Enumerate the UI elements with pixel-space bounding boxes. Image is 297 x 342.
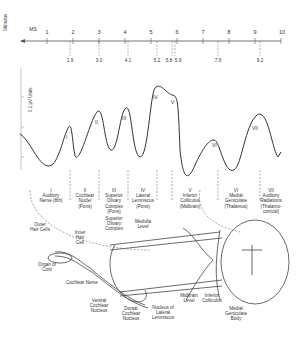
tick-3: 3 <box>97 29 100 35</box>
axis-arrow-icon <box>20 39 25 43</box>
wave-iii-label: III <box>122 115 126 121</box>
wave-i-label: I <box>66 134 67 140</box>
wave-ii-label: II <box>95 119 98 125</box>
medial-geniculate-body-label: Medial Geniculate Body <box>222 306 250 322</box>
latency-v2: 5.9 <box>175 58 181 63</box>
wave-vii-label: VII <box>252 125 258 131</box>
organ-of-corti-label: Organ of Corti <box>36 262 58 272</box>
ms-label: MS <box>29 26 37 32</box>
amplitude-label: 0.1 µV Units <box>28 87 33 112</box>
latency-ii: 3.0 <box>96 58 102 63</box>
superior-olivary-label: Superior Olivary Complex <box>102 216 126 232</box>
abr-waveform <box>20 86 281 176</box>
tick-8: 8 <box>227 29 230 35</box>
latency-v1: 5.8 <box>166 58 172 63</box>
latency-vii: 9.2 <box>257 58 263 63</box>
ventral-cochlear-label: Ventral Cochlear Nucleus <box>88 298 110 314</box>
wave-iv-label: IV <box>153 94 158 100</box>
latency-i: 1.9 <box>67 58 73 63</box>
generator-vii: VIIAuditoryRadiations(Thalamo-cortical) <box>255 188 287 214</box>
outer-hair-cells-label: Outer Hair Cells <box>30 222 50 232</box>
tick-5: 5 <box>149 29 152 35</box>
tick-10: 10 <box>279 29 285 35</box>
midbrain-level-label: Midbrain Level <box>178 293 200 303</box>
latency-iii: 4.1 <box>125 58 131 63</box>
dorsal-cochlear-label: Dorsal Cochlear Nucleus <box>120 306 142 322</box>
tick-4: 4 <box>123 29 126 35</box>
generator-ii: IICochlearNuclei(Pons) <box>72 188 98 209</box>
inferior-colliculus-label: Inferior Colliculus <box>200 293 224 303</box>
tick-1: 1 <box>45 29 48 35</box>
inner-hair-cell-label: Inner Hair Cell <box>72 230 88 246</box>
latency-vi: 7.6 <box>215 58 221 63</box>
diagram-canvas <box>0 0 297 342</box>
stimulus-label: Stimulus <box>3 14 8 31</box>
cochlear-nerve-label: Cochlear Nerve <box>66 280 98 285</box>
tick-2: 2 <box>71 29 74 35</box>
generator-i: IAuditoryNerve (8th) <box>34 188 68 204</box>
generator-vi: VIMedialGeniculate(Thalamus) <box>220 188 252 209</box>
generator-iii: IIISuperiorOlivaryComplex(Pons) <box>101 188 127 214</box>
wave-vi-label: VI <box>212 142 217 148</box>
latency-iv: 5.2 <box>154 58 160 63</box>
medulla-level-label: Medulla Level <box>133 219 153 229</box>
tick-9: 9 <box>253 29 256 35</box>
generator-iv: IVLateralLemniscus(Pons) <box>130 188 156 209</box>
wave-v-label: V <box>171 99 174 105</box>
nucleus-lateral-lemniscus-label: Nucleus of Lateral Lemniscus <box>150 305 176 321</box>
generator-v: VInferiorColliculus(Midbrain) <box>175 188 205 209</box>
tick-7: 7 <box>201 29 204 35</box>
tick-6: 6 <box>175 29 178 35</box>
